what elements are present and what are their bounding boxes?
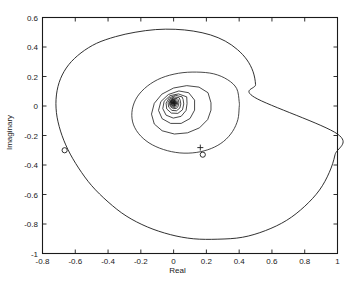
x-tick-label: 0.6 bbox=[266, 257, 277, 266]
series-ring-2 bbox=[132, 72, 240, 153]
series-outer-loop bbox=[56, 29, 343, 239]
y-tick-label: 0.2 bbox=[10, 72, 38, 81]
data-series-group bbox=[56, 29, 343, 239]
y-tick-label: 0 bbox=[10, 102, 38, 111]
y-tick-label: -0.4 bbox=[10, 161, 38, 170]
x-tick-label: -0.4 bbox=[101, 257, 115, 266]
axes-frame bbox=[43, 18, 338, 254]
zero-marker-right bbox=[200, 152, 205, 157]
plot-canvas bbox=[0, 0, 355, 286]
x-axis-label: Real bbox=[0, 266, 355, 275]
y-tick-label: -1 bbox=[10, 249, 38, 258]
x-tick-label: -0.8 bbox=[36, 257, 50, 266]
pole-marker-right bbox=[197, 145, 203, 151]
axis-ticks bbox=[43, 18, 338, 254]
figure-root: 0.60.40.20-0.2-0.4-0.6-0.8-1 -0.8-0.6-0.… bbox=[0, 0, 355, 286]
x-tick-label: 0.2 bbox=[201, 257, 212, 266]
x-tick-label: 0.4 bbox=[234, 257, 245, 266]
x-tick-label: -0.6 bbox=[68, 257, 82, 266]
axes-box bbox=[43, 18, 338, 254]
y-axis-label: Imaginary bbox=[5, 98, 14, 168]
y-tick-label: 0.4 bbox=[10, 43, 38, 52]
x-tick-label: -0.2 bbox=[134, 257, 148, 266]
data-markers-group bbox=[62, 100, 205, 157]
y-tick-label: -0.2 bbox=[10, 131, 38, 140]
x-tick-label: 1 bbox=[335, 257, 339, 266]
y-tick-label: 0.6 bbox=[10, 13, 38, 22]
y-tick-label: -0.8 bbox=[10, 220, 38, 229]
zero-marker-left bbox=[62, 148, 67, 153]
y-tick-label: -0.6 bbox=[10, 190, 38, 199]
x-tick-label: 0.8 bbox=[299, 257, 310, 266]
x-tick-label: 0 bbox=[171, 257, 175, 266]
series-ring-3 bbox=[151, 86, 210, 134]
